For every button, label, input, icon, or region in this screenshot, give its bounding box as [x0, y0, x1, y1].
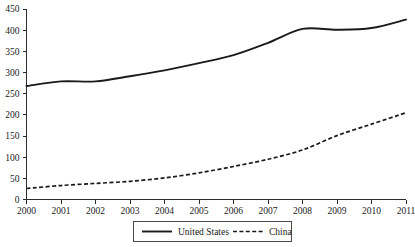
- x-tick-labels: 2000200120022003200420052006200720082009…: [17, 206, 415, 216]
- x-tick-label: 2002: [86, 206, 105, 216]
- legend-label-united-states: United States: [178, 227, 229, 237]
- y-tick-label: 400: [5, 26, 20, 36]
- y-tick-label: 350: [5, 47, 20, 57]
- line-chart: 050100150200250300350400450 200020012002…: [0, 0, 415, 247]
- series-line-united-states: [27, 20, 407, 86]
- x-tick-label: 2008: [293, 206, 312, 216]
- x-tick-label: 2006: [224, 206, 243, 216]
- series-line-china: [27, 113, 407, 189]
- y-tick-label: 300: [5, 68, 20, 78]
- y-tick-label: 0: [15, 195, 20, 205]
- y-tick-label: 150: [5, 131, 20, 141]
- x-tick-label: 2010: [362, 206, 381, 216]
- y-axis-group: 050100150200250300350400450: [5, 4, 26, 205]
- x-tick-label: 2001: [52, 206, 71, 216]
- x-tick-label: 2005: [190, 206, 209, 216]
- x-tick-marks: [27, 200, 407, 204]
- y-tick-labels: 050100150200250300350400450: [5, 4, 20, 205]
- y-tick-label: 450: [5, 4, 20, 14]
- x-tick-label: 2004: [155, 206, 174, 216]
- legend-label-china: China: [269, 227, 292, 237]
- y-tick-label: 100: [5, 153, 20, 163]
- x-axis-group: 2000200120022003200420052006200720082009…: [17, 200, 415, 216]
- x-tick-label: 2000: [17, 206, 36, 216]
- chart-canvas: 050100150200250300350400450 200020012002…: [0, 0, 415, 247]
- x-tick-label: 2007: [259, 206, 278, 216]
- plot-series-group: [27, 20, 407, 189]
- y-tick-label: 250: [5, 89, 20, 99]
- y-tick-marks: [23, 9, 27, 200]
- x-tick-label: 2011: [397, 206, 415, 216]
- y-tick-label: 50: [10, 174, 20, 184]
- y-tick-label: 200: [5, 110, 20, 120]
- x-tick-label: 2009: [328, 206, 347, 216]
- legend: United States China: [134, 222, 293, 242]
- x-tick-label: 2003: [121, 206, 140, 216]
